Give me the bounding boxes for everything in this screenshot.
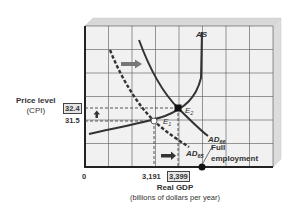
x-tick-3399: 3,399 xyxy=(167,171,190,182)
x-axis-label: Real GDP (billions of dollars per year) xyxy=(130,183,220,203)
x-axis-title: Real GDP xyxy=(130,183,220,193)
x-tick-0: 0 xyxy=(82,172,86,181)
full-employment-label-2: employment xyxy=(211,154,258,163)
y-tick-32-4: 32.4 xyxy=(63,103,82,114)
box-top-face xyxy=(85,18,281,26)
e1-point xyxy=(151,118,157,124)
x-tick-3191: 3,191 xyxy=(142,172,161,181)
y-axis-subtitle: (CPI) xyxy=(16,106,56,116)
as-label: AS xyxy=(195,30,208,39)
box-right-face xyxy=(273,18,281,167)
y-axis-title: Price level xyxy=(16,96,56,106)
y-tick-31-5: 31.5 xyxy=(65,116,80,125)
y-axis-label: Price level (CPI) xyxy=(16,96,56,116)
x-axis-subtitle: (billions of dollars per year) xyxy=(130,193,220,203)
full-employment-point xyxy=(199,164,206,171)
full-employment-label-1: Full xyxy=(211,143,225,152)
e2-point xyxy=(175,105,182,112)
